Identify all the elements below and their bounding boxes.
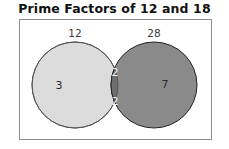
left-only-member: 3 — [49, 79, 69, 92]
left-set-label: 12 — [56, 27, 94, 39]
venn-svg-canvas — [19, 19, 212, 140]
page-title: Prime Factors of 12 and 18 — [0, 1, 229, 16]
right-circle — [111, 42, 197, 128]
right-only-member: 7 — [155, 78, 175, 91]
venn-diagram-figure: Prime Factors of 12 and 18 12 28 3 2 2 7 — [0, 0, 229, 149]
intersection-member-bottom: 2 — [105, 95, 125, 108]
intersection-member-top: 2 — [105, 66, 125, 79]
right-set-label: 28 — [135, 27, 173, 39]
